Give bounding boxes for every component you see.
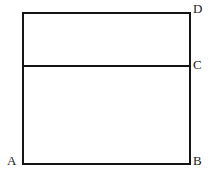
vertex-label-c: C bbox=[193, 58, 202, 71]
geometry-figure: D C A B bbox=[0, 0, 212, 183]
vertex-label-b: B bbox=[193, 154, 202, 167]
figure-line-art bbox=[0, 0, 212, 183]
vertex-label-a: A bbox=[7, 154, 16, 167]
vertex-label-d: D bbox=[193, 2, 202, 15]
rectangle-outline bbox=[23, 13, 190, 164]
